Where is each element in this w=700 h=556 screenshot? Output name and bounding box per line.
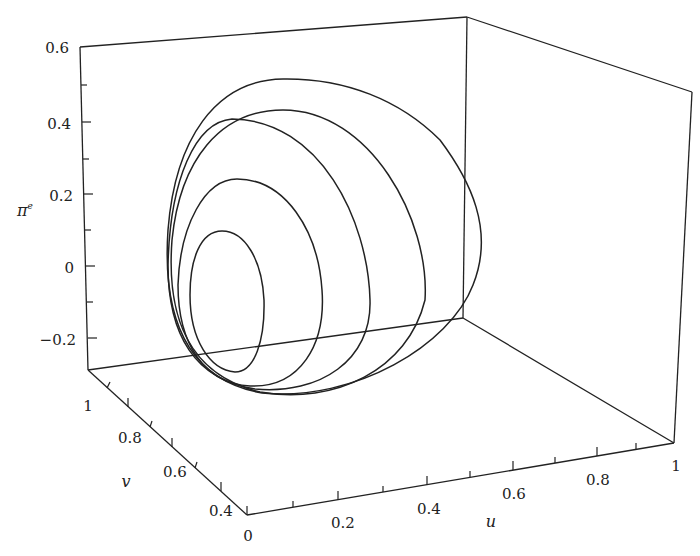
z-tick-label: 0.4 [47, 115, 71, 133]
v-axis-tick-labels: 1 0.8 0.6 0.4 [83, 397, 233, 520]
trajectory-loop-5 [167, 79, 481, 394]
v-axis-label: v [121, 472, 130, 491]
box-top-right-edge [467, 17, 692, 92]
u-axis-label: u [486, 512, 496, 531]
trajectory-curve [167, 79, 481, 395]
trajectory-loop-4 [171, 110, 425, 395]
box-right-vertical-edge [674, 92, 692, 443]
u-axis-ticks [293, 443, 636, 507]
3d-plot: 0.6 0.4 0.2 0 −0.2 πe 1 0.8 0.6 0.4 v 0 … [0, 0, 700, 556]
v-tick-label: 0.6 [163, 463, 187, 481]
u-axis-tick-labels: 0 0.2 0.4 0.6 0.8 1 [243, 457, 681, 545]
z-tick-label: 0 [64, 259, 74, 277]
u-tick-label: 0.6 [502, 485, 526, 503]
z-axis-label: πe [16, 201, 33, 220]
box-top-left-edge [80, 17, 467, 47]
z-axis-tick-labels: 0.6 0.4 0.2 0 −0.2 [40, 39, 76, 349]
z-axis-line [80, 47, 88, 370]
v-axis-line [88, 370, 247, 515]
v-tick-label: 0.4 [209, 502, 233, 520]
u-tick-label: 0 [243, 527, 253, 545]
z-tick-label: 0.6 [45, 39, 69, 57]
z-tick-label: −0.2 [40, 331, 76, 349]
box-back-vertical-edge [463, 17, 467, 318]
u-tick-label: 1 [671, 457, 681, 475]
trajectory-loop-3 [168, 119, 370, 390]
u-tick-label: 0.8 [586, 471, 610, 489]
z-tick-label: 0.2 [49, 187, 73, 205]
box-bottom-back-right-edge [463, 318, 674, 443]
u-axis-line [247, 443, 674, 515]
v-tick-label: 0.8 [118, 429, 142, 447]
box-bottom-back-left-edge [88, 318, 463, 370]
z-axis-ticks [81, 85, 97, 338]
v-tick-label: 1 [83, 397, 93, 415]
u-tick-label: 0.2 [331, 514, 355, 532]
u-tick-label: 0.4 [417, 500, 441, 518]
